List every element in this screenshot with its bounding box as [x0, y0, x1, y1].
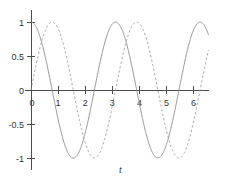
x-tick-label-0: 0	[29, 98, 34, 108]
x-tick-label-2: 2	[83, 98, 88, 108]
y-tick-label-1: 1	[19, 18, 24, 28]
chart-svg: 0123456 -1-0.500.51 t	[0, 0, 232, 189]
x-tick-label-6: 6	[191, 98, 196, 108]
y-tick-label--0.5: -0.5	[8, 120, 24, 130]
x-axis-title: t	[119, 164, 122, 175]
y-tick-label-0.5: 0.5	[11, 52, 24, 62]
y-tick-label--1: -1	[16, 154, 24, 164]
chart-plot-area: 0123456 -1-0.500.51 t	[0, 0, 232, 189]
y-axis-tick-labels: -1-0.500.51	[8, 18, 24, 164]
x-tick-label-1: 1	[56, 98, 61, 108]
y-tick-label-0: 0	[19, 86, 24, 96]
x-tick-label-5: 5	[164, 98, 169, 108]
